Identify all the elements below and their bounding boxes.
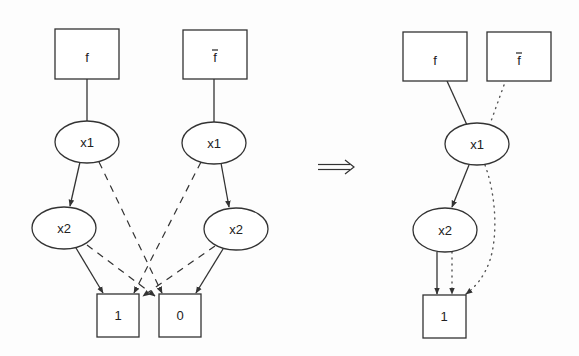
node-x1-left: x1 [55, 121, 119, 163]
edge-x2-right-to-one-dashed [143, 246, 215, 296]
node-f-label: f [433, 53, 437, 68]
node-x2-right-label: x2 [229, 222, 243, 237]
node-x2: x2 [413, 208, 477, 252]
node-f: f [55, 29, 119, 79]
diagram-svg: f f x1 x1 x2 x2 [0, 0, 579, 356]
node-terminal-one: 1 [423, 295, 466, 338]
edge-x1-left-to-x2-left-solid [70, 162, 80, 206]
node-fbar-label: f [517, 53, 521, 68]
node-x2-label: x2 [438, 223, 452, 238]
node-one-label: 1 [440, 309, 447, 324]
node-one-label: 1 [114, 308, 121, 323]
node-x2-right: x2 [204, 208, 268, 250]
node-x1: x1 [445, 123, 509, 165]
node-x1-label: x1 [470, 137, 484, 152]
node-terminal-one: 1 [97, 294, 139, 337]
bdd-diagram: f f x1 x1 x2 x2 [0, 0, 579, 356]
node-fbar-label: f [213, 50, 217, 65]
node-x1-left-label: x1 [80, 135, 94, 150]
edge-x1-to-x2-solid [452, 165, 469, 207]
node-fbar: f [183, 30, 247, 79]
node-zero-label: 0 [176, 308, 183, 323]
node-f-label: f [85, 50, 89, 65]
edge-fbar-to-x1-dotted [490, 85, 504, 124]
edge-x1-right-to-one-dashed [134, 162, 201, 293]
node-x1-right-label: x1 [207, 136, 221, 151]
right-graph: f f x1 x2 1 [403, 32, 551, 338]
edge-x2-left-to-zero-dashed [87, 245, 155, 296]
node-x2-left: x2 [32, 207, 96, 249]
node-f: f [403, 32, 467, 81]
edge-x1-right-to-x2-right-solid [221, 163, 229, 207]
node-fbar: f [487, 32, 551, 81]
node-x2-left-label: x2 [57, 221, 71, 236]
left-graph: f f x1 x1 x2 x2 [32, 29, 268, 337]
edge-x1-left-to-zero-dashed [99, 162, 162, 293]
node-x1-right: x1 [182, 122, 246, 164]
edge-x2-left-to-one-solid [76, 248, 103, 293]
node-terminal-zero: 0 [159, 294, 201, 337]
edge-f-to-x1 [447, 81, 467, 125]
implies-arrow-icon [318, 160, 354, 174]
edge-x2-right-to-zero-solid [196, 249, 223, 293]
